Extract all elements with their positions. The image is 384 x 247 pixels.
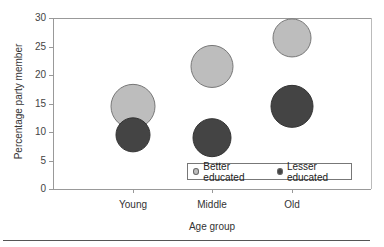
bubble-lesser-educated-young [116,118,150,152]
bubble-lesser-educated-old [271,85,313,127]
bubble-lesser-educated-middle [193,119,231,157]
bubble-better-educated-middle [191,45,233,87]
x-axis-title: Age group [182,221,242,232]
y-tick-label: 30 [26,12,46,23]
legend-item-better-educated: Better educated [193,161,265,183]
legend-swatch-icon [193,168,199,175]
y-tick-label: 10 [26,126,46,137]
y-axis-title: Percentage party member [13,32,24,172]
legend-swatch-icon [277,168,283,175]
bubble-better-educated-old [273,19,311,57]
y-tick-label: 15 [26,98,46,109]
x-tick-label: Old [262,199,322,210]
y-tick-label: 20 [26,69,46,80]
y-tick-label: 25 [26,41,46,52]
x-tick-label: Young [103,199,163,210]
legend-label: Lesser educated [287,161,351,183]
legend-item-lesser-educated: Lesser educated [277,161,351,183]
bubble-chart: 051015202530 YoungMiddleOld Percentage p… [0,0,384,247]
y-tick-label: 0 [26,183,46,194]
bottom-divider [3,240,370,241]
legend-label: Better educated [203,161,264,183]
legend: Better educated Lesser educated [187,163,352,180]
x-tick-label: Middle [182,199,242,210]
y-tick-label: 5 [26,155,46,166]
